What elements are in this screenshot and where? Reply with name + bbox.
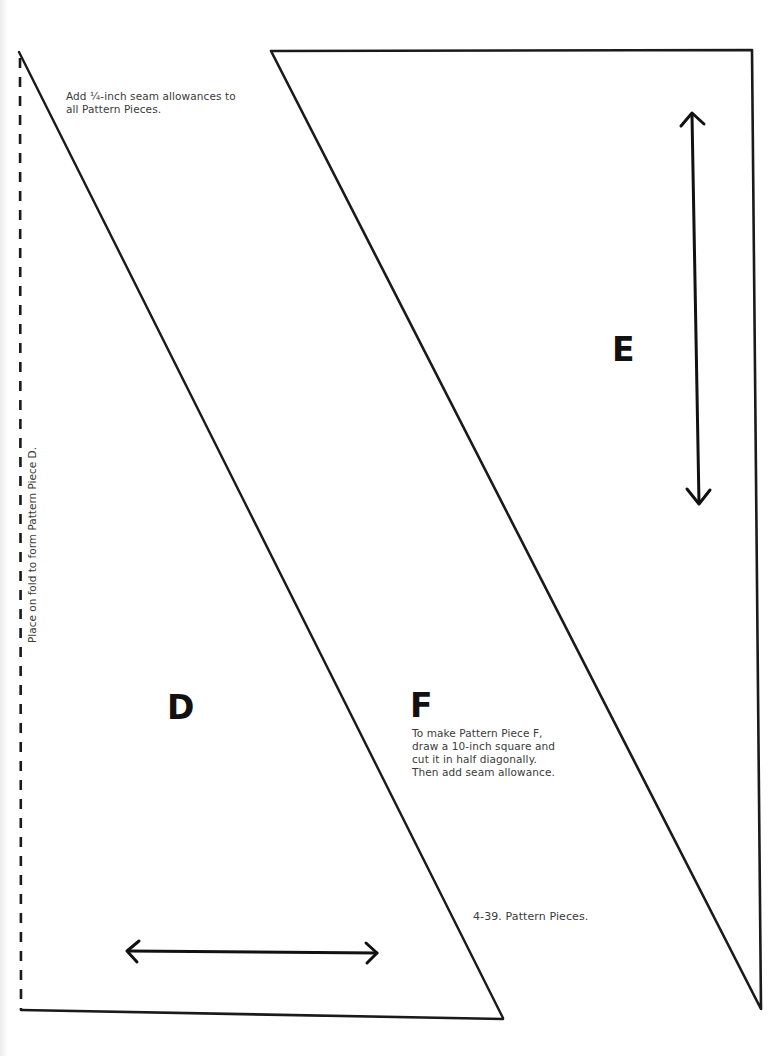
- piece-f-instruction-line-4: Then add seam allowance.: [412, 766, 555, 779]
- pattern-drawing: [0, 0, 784, 1056]
- fold-instruction-label: Place on fold to form Pattern Piece D.: [26, 447, 38, 643]
- piece-f-instruction-line-3: cut it in half diagonally.: [412, 753, 555, 766]
- seam-allowance-note: Add ¼-inch seam allowances to all Patter…: [66, 90, 236, 116]
- seam-note-line-2: all Pattern Pieces.: [66, 103, 236, 116]
- piece-d-bottom-edge: [21, 1010, 503, 1019]
- seam-note-line-1: Add ¼-inch seam allowances to: [66, 90, 236, 103]
- piece-f-instructions: To make Pattern Piece F, draw a 10-inch …: [412, 727, 555, 779]
- piece-f-instruction-line-1: To make Pattern Piece F,: [412, 727, 555, 740]
- piece-d-diagonal-edge: [19, 52, 503, 1018]
- grainline-arrow-e-icon: [681, 113, 710, 504]
- fold-dashed-line: [20, 58, 21, 1010]
- pattern-piece-d-outline: [19, 52, 503, 1019]
- piece-label-d: D: [167, 691, 194, 724]
- figure-caption: 4-39. Pattern Pieces.: [473, 910, 588, 923]
- piece-f-instruction-line-2: draw a 10-inch square and: [412, 740, 555, 753]
- grainline-arrow-d-icon: [127, 941, 377, 963]
- piece-label-f: F: [410, 689, 433, 722]
- piece-label-e: E: [612, 333, 635, 366]
- pattern-piece-e-outline: [271, 50, 761, 1009]
